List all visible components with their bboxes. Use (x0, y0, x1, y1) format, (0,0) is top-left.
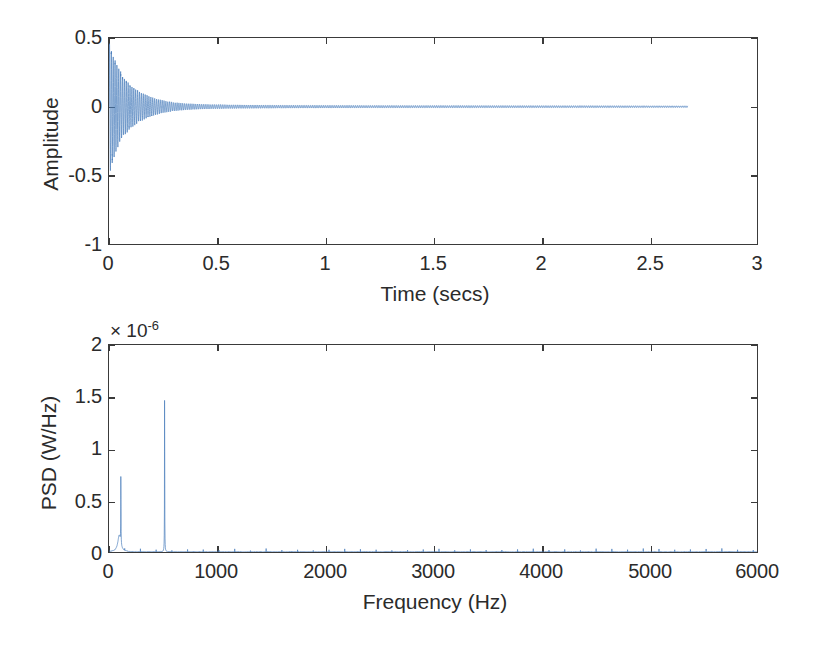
x-tick-label-time-4: 2 (536, 252, 547, 275)
x-tick-label-psd-0: 0 (103, 560, 114, 583)
x-tick-label-time-2: 1 (320, 252, 331, 275)
x-tick-label-psd-6: 6000 (735, 560, 779, 583)
tick-y-psd-r4 (751, 552, 757, 553)
y-axis-label-amplitude: Amplitude (39, 49, 63, 239)
x-tick-label-psd-2: 2000 (303, 560, 347, 583)
x-tick-label-time-0: 0 (103, 252, 114, 275)
y-tick-label-psd-3: 0.5 (32, 490, 102, 513)
y-tick-label-time-0: 0.5 (40, 26, 102, 49)
x-tick-label-psd-5: 5000 (628, 560, 672, 583)
x-tick-label-time-6: 3 (752, 252, 763, 275)
x-tick-label-psd-1: 1000 (194, 560, 238, 583)
x-tick-label-time-1: 0.5 (202, 252, 229, 275)
y-tick-label-time-1: 0 (40, 95, 102, 118)
matlab-figure: Amplitude 0.5 0 -0.5 -1 0 0.5 1 1.5 (0, 0, 814, 645)
y-tick-label-psd-1: 1.5 (32, 385, 102, 408)
tick-y-psd-4 (109, 552, 115, 553)
psd-trace (109, 345, 757, 552)
y-axis-exponent-psd: × 10-6 (110, 318, 159, 342)
x-tick-label-time-3: 1.5 (419, 252, 446, 275)
x-axis-label-psd: Frequency (Hz) (325, 590, 545, 614)
tick-y-time-r3 (751, 244, 757, 245)
time-domain-trace (109, 38, 757, 244)
time-domain-axes (108, 37, 758, 245)
x-axis-label-time: Time (secs) (330, 282, 540, 306)
y-tick-label-psd-4: 0 (40, 542, 102, 565)
exponent-mantissa: × 10 (110, 320, 148, 341)
x-tick-label-psd-3: 3000 (411, 560, 455, 583)
y-tick-label-psd-0: 2 (40, 333, 102, 356)
exponent-power: -6 (148, 318, 159, 333)
x-tick-label-psd-4: 4000 (519, 560, 563, 583)
x-tick-label-time-5: 2.5 (636, 252, 663, 275)
y-tick-label-time-3: -1 (34, 233, 102, 256)
y-tick-label-psd-2: 1 (40, 437, 102, 460)
y-tick-label-time-2: -0.5 (34, 164, 102, 187)
tick-y-time-3 (109, 244, 115, 245)
psd-axes (108, 344, 758, 553)
